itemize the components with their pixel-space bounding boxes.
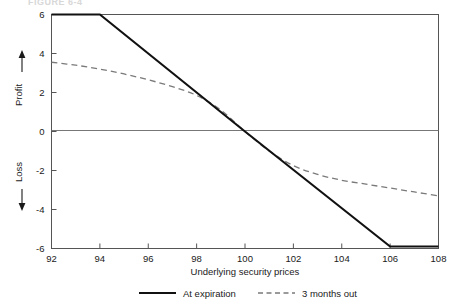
- x-axis-tick-labels: 92949698100102104106108: [46, 253, 446, 264]
- x-tick-label: 108: [431, 253, 447, 264]
- x-tick-label: 94: [95, 253, 106, 264]
- y-axis-tick-labels: 6420-2-4-6: [36, 9, 44, 254]
- x-tick-label: 96: [143, 253, 154, 264]
- y-tick-label: 0: [39, 126, 44, 137]
- x-tick-label: 92: [46, 253, 57, 264]
- profit-loss-chart: 6420-2-4-6 92949698100102104106108 Under…: [0, 0, 460, 308]
- x-tick-label: 102: [285, 253, 301, 264]
- x-tick-label: 100: [237, 253, 253, 264]
- legend-label-3-months-out: 3 months out: [302, 288, 357, 299]
- series-line-3-months-out: [52, 62, 439, 196]
- x-tick-label: 106: [382, 253, 398, 264]
- x-tick-label: 98: [191, 253, 202, 264]
- chart-legend: At expiration 3 months out: [139, 288, 357, 299]
- y-tick-label: -4: [36, 204, 44, 215]
- y-tick-label: -2: [36, 165, 44, 176]
- y-axis-label: Profit Loss: [13, 50, 25, 211]
- y-axis-label-profit: Profit: [13, 84, 24, 107]
- profit-up-arrow-icon: [19, 50, 26, 72]
- y-tick-label: 2: [39, 87, 44, 98]
- legend-label-at-expiration: At expiration: [183, 288, 236, 299]
- x-tick-label: 104: [334, 253, 350, 264]
- y-tick-label: 4: [39, 48, 44, 59]
- x-axis-ticks: [52, 244, 439, 249]
- loss-down-arrow-icon: [19, 189, 26, 211]
- x-axis-title: Underlying security prices: [191, 266, 300, 277]
- y-axis-ticks: [52, 15, 57, 249]
- y-tick-label: -6: [36, 243, 44, 254]
- y-axis-label-loss: Loss: [13, 162, 24, 182]
- y-tick-label: 6: [39, 9, 44, 20]
- chart-svg: 6420-2-4-6 92949698100102104106108 Under…: [0, 0, 460, 308]
